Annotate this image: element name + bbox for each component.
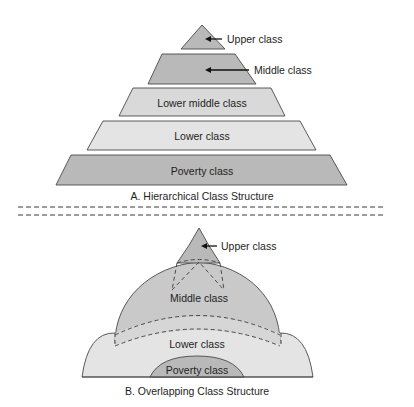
label-middle-class: Middle class [254,64,312,76]
overlap-label-upper-class: Upper class [221,240,276,252]
label-lower-middle-class: Lower middle class [157,97,246,109]
pyramid-layer-middle-class [148,54,256,84]
caption-hierarchical: A. Hierarchical Class Structure [131,190,274,202]
overlap-label-lower-class: Lower class [169,338,224,350]
overlap-label-middle-class: Middle class [170,292,228,304]
section-separator [18,207,386,215]
class-structure-diagram: Upper class Middle class Lower middle cl… [0,0,414,407]
pyramid-layer-upper-class [181,25,225,49]
label-poverty-class: Poverty class [171,165,233,177]
hierarchical-pyramid: Upper class Middle class Lower middle cl… [56,25,347,202]
overlap-label-poverty-class: Poverty class [166,364,228,376]
label-upper-class: Upper class [227,33,282,45]
caption-overlapping: B. Overlapping Class Structure [125,385,269,397]
label-lower-class: Lower class [174,130,229,142]
overlapping-structure: Upper class Middle class Lower class Pov… [82,228,313,397]
